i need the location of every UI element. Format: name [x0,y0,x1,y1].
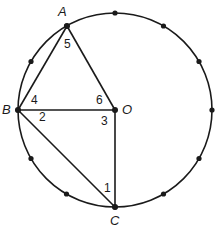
hour-marker-dot [28,59,33,64]
angle-2-label: 2 [39,110,46,124]
angle-3-label: 3 [101,114,108,128]
clock-geometry-diagram: A B O C 1 2 3 4 5 6 [0,0,217,228]
angle-1-label: 1 [104,181,111,195]
angle-6-label: 6 [96,93,103,107]
angle-5-label: 5 [64,37,71,51]
segment-ab [18,26,67,110]
segment-ao [67,26,115,110]
point-a-label: A [57,4,67,19]
hour-marker-dot [196,59,201,64]
hour-marker-dot [112,10,117,15]
point-c-label: C [110,213,120,228]
hour-marker-dot [64,191,69,196]
hour-marker-dot [28,156,33,161]
hour-marker-dot [161,23,166,28]
hour-marker-dot [196,156,201,161]
angle-4-label: 4 [31,93,38,107]
point-o-dot [112,107,118,113]
angle-labels: 1 2 3 4 5 6 [31,37,111,195]
point-o-label: O [122,102,132,117]
point-b-label: B [2,102,11,117]
hour-marker-dot [209,107,214,112]
hour-marker-dot [161,191,166,196]
point-b-dot [15,107,21,113]
point-a-dot [64,23,70,29]
point-c-dot [112,204,118,210]
